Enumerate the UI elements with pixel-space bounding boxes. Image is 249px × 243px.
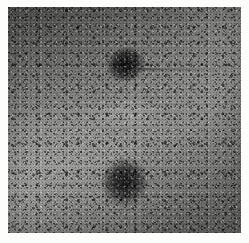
micrograph-plate: [8, 7, 241, 233]
fine-grain-layer: [8, 7, 241, 233]
screenshot-root: [0, 0, 249, 243]
